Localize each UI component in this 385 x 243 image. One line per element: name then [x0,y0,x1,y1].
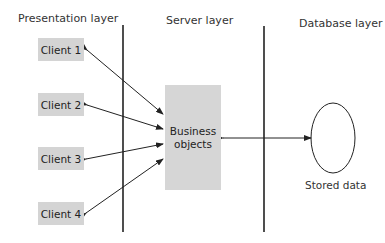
arrow-client-2 [87,105,163,129]
stored-data-label: Stored data [305,179,366,191]
client-1-label: Client 1 [41,44,81,56]
client-4-box: Client 4 [38,202,84,225]
client-4-label: Client 4 [41,208,81,220]
client-1-box: Client 1 [38,38,84,61]
client-2-box: Client 2 [38,93,84,116]
client-3-box: Client 3 [38,147,84,170]
arrow-client-3 [86,144,163,159]
stored-data-ellipse [311,103,355,173]
arrow-client-1 [87,50,163,114]
client-2-label: Client 2 [41,99,81,111]
business-objects-label-line2: objects [170,138,216,151]
arrow-client-4 [86,159,163,213]
business-objects-label-line1: Business [170,125,216,138]
client-3-label: Client 3 [41,153,81,165]
business-objects-box: Business objects [165,85,221,190]
